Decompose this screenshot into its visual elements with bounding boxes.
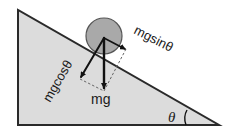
- label-mg: mg: [91, 91, 110, 107]
- label-mgsin: mgsinθ: [132, 22, 176, 54]
- label-theta: θ: [168, 109, 176, 125]
- incline-diagram: mgsinθ mgcosθ mg θ: [0, 0, 237, 134]
